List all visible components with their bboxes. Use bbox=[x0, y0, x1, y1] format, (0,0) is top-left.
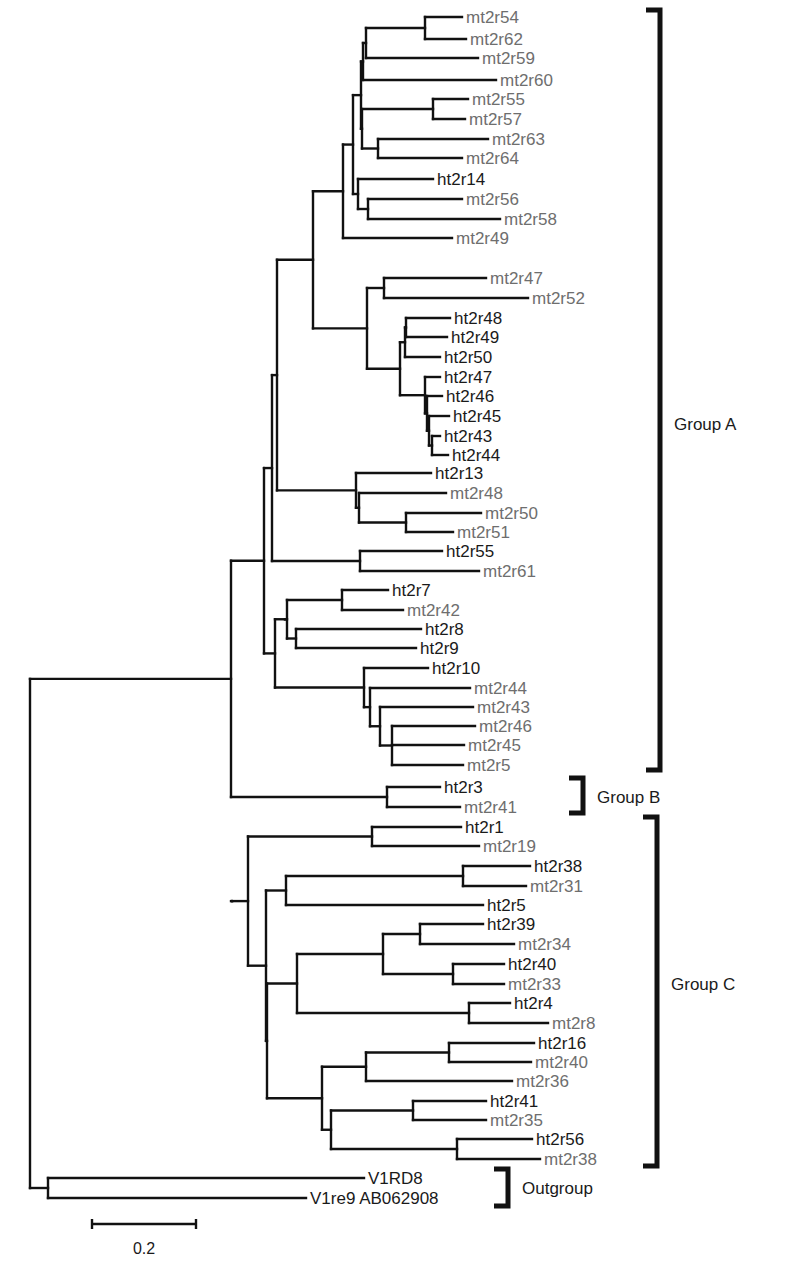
leaf-label: ht2r44 bbox=[452, 446, 500, 465]
group-label: Group A bbox=[674, 415, 737, 434]
leaf-label: ht2r14 bbox=[437, 170, 485, 189]
leaf-label: ht2r16 bbox=[538, 1034, 586, 1053]
leaf-label: mt2r58 bbox=[504, 210, 557, 229]
leaf-label: ht2r50 bbox=[444, 348, 492, 367]
leaf-label: ht2r43 bbox=[444, 427, 492, 446]
group-bracket bbox=[494, 1169, 508, 1206]
leaf-label: mt2r54 bbox=[466, 8, 519, 27]
leaf-label: ht2r56 bbox=[536, 1130, 584, 1149]
leaf-label: mt2r8 bbox=[552, 1014, 595, 1033]
leaf-label: mt2r47 bbox=[490, 269, 543, 288]
leaf-label: mt2r59 bbox=[482, 49, 535, 68]
leaf-label: ht2r9 bbox=[420, 639, 459, 658]
leaf-label: ht2r45 bbox=[453, 407, 501, 426]
leaf-label: mt2r31 bbox=[530, 877, 583, 896]
leaf-label: ht2r38 bbox=[534, 857, 582, 876]
leaf-label: mt2r5 bbox=[467, 756, 510, 775]
leaf-label: ht2r5 bbox=[487, 896, 526, 915]
leaf-label: ht2r41 bbox=[490, 1092, 538, 1111]
leaf-label: mt2r63 bbox=[492, 130, 545, 149]
tree-canvas: mt2r54mt2r62mt2r59mt2r60mt2r55mt2r57mt2r… bbox=[0, 0, 795, 1268]
group-brackets: Group AGroup BGroup COutgroup bbox=[494, 10, 737, 1206]
phylogenetic-tree-figure: mt2r54mt2r62mt2r59mt2r60mt2r55mt2r57mt2r… bbox=[0, 0, 795, 1268]
leaf-label: mt2r61 bbox=[483, 562, 536, 581]
leaf-label: V1re9 AB062908 bbox=[310, 1189, 439, 1208]
leaf-label: mt2r50 bbox=[485, 504, 538, 523]
leaf-label: ht2r1 bbox=[465, 818, 504, 837]
leaf-label: mt2r52 bbox=[532, 289, 585, 308]
leaf-label: mt2r41 bbox=[464, 798, 517, 817]
leaf-label: mt2r43 bbox=[477, 698, 530, 717]
leaf-label: ht2r10 bbox=[432, 659, 480, 678]
group-label: Outgroup bbox=[522, 1179, 593, 1198]
scale-bar: 0.2 bbox=[92, 1219, 196, 1257]
leaf-label: mt2r48 bbox=[450, 484, 503, 503]
leaf-label: mt2r46 bbox=[479, 717, 532, 736]
leaf-label: mt2r19 bbox=[483, 837, 536, 856]
leaf-label: mt2r57 bbox=[469, 110, 522, 129]
leaf-label: ht2r46 bbox=[446, 387, 494, 406]
group-label: Group B bbox=[597, 788, 660, 807]
leaf-label: ht2r49 bbox=[451, 328, 499, 347]
group-bracket bbox=[643, 817, 657, 1166]
leaf-label: mt2r33 bbox=[508, 975, 561, 994]
leaf-label: mt2r36 bbox=[516, 1072, 569, 1091]
leaf-label: ht2r8 bbox=[425, 620, 464, 639]
leaf-label: mt2r49 bbox=[456, 229, 509, 248]
group-label: Group C bbox=[671, 975, 735, 994]
leaf-label: mt2r44 bbox=[474, 679, 527, 698]
leaf-label: ht2r3 bbox=[444, 778, 483, 797]
leaf-label: ht2r13 bbox=[435, 464, 483, 483]
leaf-label: mt2r64 bbox=[466, 149, 519, 168]
leaf-label: mt2r40 bbox=[535, 1053, 588, 1072]
leaf-label: ht2r7 bbox=[392, 581, 431, 600]
leaf-label: ht2r39 bbox=[487, 915, 535, 934]
scale-bar-label: 0.2 bbox=[133, 1240, 155, 1257]
group-bracket bbox=[569, 778, 583, 813]
leaf-label: ht2r40 bbox=[508, 955, 556, 974]
leaf-label: mt2r55 bbox=[472, 90, 525, 109]
leaf-label: mt2r42 bbox=[407, 601, 460, 620]
leaf-label: mt2r34 bbox=[518, 935, 571, 954]
leaf-label: ht2r4 bbox=[514, 994, 553, 1013]
group-bracket bbox=[646, 10, 660, 770]
leaf-label: V1RD8 bbox=[368, 1169, 423, 1188]
leaf-label: mt2r45 bbox=[468, 736, 521, 755]
leaf-label: ht2r47 bbox=[444, 368, 492, 387]
leaf-label: ht2r48 bbox=[454, 309, 502, 328]
leaf-label: mt2r35 bbox=[490, 1111, 543, 1130]
leaf-label: mt2r38 bbox=[544, 1150, 597, 1169]
leaf-label: mt2r51 bbox=[457, 523, 510, 542]
leaf-label: mt2r56 bbox=[466, 190, 519, 209]
leaf-label: mt2r62 bbox=[470, 30, 523, 49]
leaf-label: mt2r60 bbox=[500, 71, 553, 90]
leaf-label: ht2r55 bbox=[446, 542, 494, 561]
